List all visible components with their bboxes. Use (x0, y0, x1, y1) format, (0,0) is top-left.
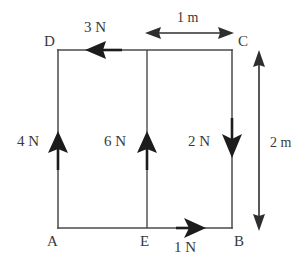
vertex-label-d: D (44, 33, 55, 49)
dimension-1m-arrowhead-left (145, 27, 161, 39)
force-3n-label: 3 N (84, 19, 106, 35)
dimension-2m-arrowhead-bottom (253, 214, 265, 231)
vertex-label-c: C (238, 33, 248, 49)
force-diagram-canvas: D C A B E 3 N 4 N 6 N 2 N (0, 0, 307, 273)
force-arrow-4n: 4 N (17, 131, 68, 170)
force-4n-label: 4 N (17, 133, 39, 149)
force-3n-arrowhead (85, 41, 106, 59)
dimension-1m: 1 m (145, 10, 234, 39)
dimension-2m: 2 m (253, 50, 292, 231)
force-6n-label: 6 N (104, 133, 126, 149)
force-arrow-2n: 2 N (188, 118, 242, 158)
force-arrow-1n: 1 N (174, 218, 206, 255)
dimension-1m-label: 1 m (177, 10, 199, 25)
force-diagram-container: D C A B E 3 N 4 N 6 N 2 N (0, 0, 307, 273)
vertex-label-a: A (47, 233, 58, 249)
force-arrow-3n: 3 N (84, 19, 122, 59)
force-2n-label: 2 N (188, 133, 210, 149)
force-1n-label: 1 N (174, 239, 196, 255)
dimension-2m-arrowhead-top (253, 50, 265, 67)
vertex-label-e: E (140, 233, 149, 249)
dimension-2m-label: 2 m (270, 135, 292, 150)
vertex-label-b: B (234, 233, 244, 249)
force-arrow-6n: 6 N (104, 131, 157, 170)
dimension-1m-arrowhead-right (218, 27, 234, 39)
